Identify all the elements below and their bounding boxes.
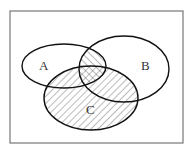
set-a-label: A xyxy=(39,58,49,73)
set-c-label: C xyxy=(86,102,95,117)
venn-diagram: A B C xyxy=(0,0,192,156)
set-b-label: B xyxy=(141,58,150,73)
